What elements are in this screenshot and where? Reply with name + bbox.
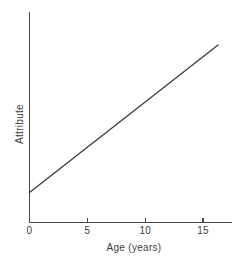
data-series-group — [30, 45, 219, 192]
x-tick-label: 15 — [197, 225, 209, 236]
x-axis-ticks — [30, 218, 204, 223]
data-line-attribute — [30, 45, 219, 192]
x-axis-label: Age (years) — [107, 242, 162, 253]
chart-figure: 051015 Age (years) Attribute — [0, 0, 243, 264]
x-tick-label: 0 — [27, 225, 33, 236]
x-tick-label: 10 — [139, 225, 151, 236]
x-tick-label: 5 — [84, 225, 90, 236]
y-axis-label: Attribute — [14, 104, 25, 144]
